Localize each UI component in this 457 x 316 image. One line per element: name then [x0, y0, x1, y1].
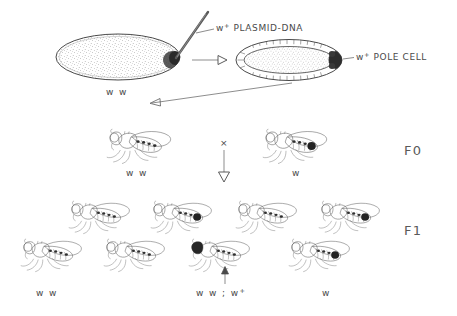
f1-fly-bottom-3-transformant: [189, 239, 250, 272]
plasmid-leader-line: [196, 29, 214, 33]
blastoderm-embryo: [236, 38, 344, 83]
svg-text:w+ POLE CELL: w+ POLE CELL: [356, 51, 427, 63]
f0-fly-right: [263, 129, 327, 163]
figure-canvas: w+ PLASMID-DNA w+ POLE CELL w w w w w × …: [0, 0, 457, 316]
development-arrow: [192, 56, 227, 65]
f0-fly-left: [107, 129, 171, 163]
scientific-diagram: w+ PLASMID-DNA w+ POLE CELL w w w w w × …: [0, 0, 457, 316]
f1-fly-bottom-4: [289, 239, 350, 272]
f1-genotype-center: w w ; w+: [196, 287, 246, 299]
f1-generation-label: F1: [404, 223, 422, 238]
pole-cell-cluster: [329, 51, 344, 69]
transformant-pointer-arrow: [222, 267, 229, 285]
f1-fly-bottom-1: [21, 239, 82, 272]
f1-fly-top-2: [151, 201, 212, 234]
f1-fly-top-1: [69, 201, 130, 234]
cross-symbol: ×: [220, 138, 228, 148]
injection-needle: [176, 12, 208, 58]
f1-fly-bottom-2: [104, 239, 165, 272]
f1-fly-top-3: [236, 201, 297, 234]
f0-cross-arrow: [219, 150, 230, 182]
embryo-genotype-label: w w: [106, 87, 128, 97]
f1-genotype-left: w w: [36, 288, 58, 298]
plasmid-dna-label: w+ PLASMID-DNA: [216, 22, 303, 34]
pole-cell-label: w+ POLE CELL: [356, 51, 427, 63]
injected-embryo: [56, 34, 181, 80]
f1-fly-top-4: [319, 201, 380, 234]
f1-genotype-right: w: [322, 288, 331, 298]
f0-genotype-right: w: [292, 168, 301, 178]
svg-text:w+ PLASMID-DNA: w+ PLASMID-DNA: [216, 22, 303, 34]
eclosion-arrow: [150, 83, 292, 106]
svg-text:w w ; w+: w w ; w+: [196, 287, 246, 299]
f0-genotype-left: w w: [126, 168, 148, 178]
f0-generation-label: F0: [404, 143, 422, 158]
pole-cell-leader-line: [343, 58, 354, 60]
